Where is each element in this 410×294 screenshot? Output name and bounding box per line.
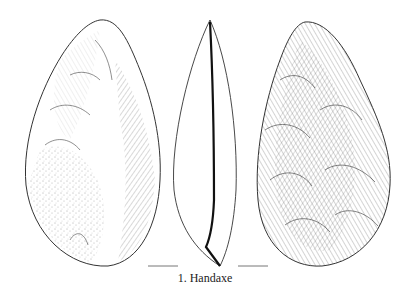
handaxe-face-b	[257, 22, 390, 266]
handaxe-illustration	[0, 0, 410, 294]
figure-caption: 1. Handaxe	[0, 271, 410, 286]
handaxe-profile	[173, 20, 236, 266]
handaxe-face-a	[25, 20, 160, 266]
